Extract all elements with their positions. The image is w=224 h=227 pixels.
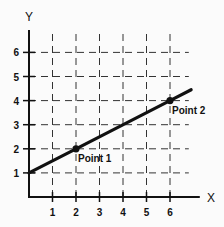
grid [29,33,189,197]
point-label-1: Point 1 [78,153,112,164]
y-axis-title: Y [25,10,33,24]
x-tick-label: 5 [144,207,150,218]
y-tick-label: 5 [13,72,19,83]
x-tick-label: 3 [97,207,103,218]
x-tick-label: 1 [50,207,56,218]
y-tick-label: 1 [13,168,19,179]
y-tick-label: 6 [13,47,19,58]
y-tick-label: 2 [13,144,19,155]
ticks [23,52,170,202]
line-chart: 123456123456 Point 1Point 2 X Y [0,0,224,227]
tick-labels: 123456123456 [13,47,173,218]
x-axis-title: X [207,191,215,205]
y-tick-label: 4 [13,96,19,107]
y-tick-label: 3 [13,120,19,131]
point-marker-1 [72,145,79,152]
x-tick-label: 2 [73,207,79,218]
x-tick-label: 6 [167,207,173,218]
point-marker-2 [166,97,173,104]
point-label-2: Point 2 [172,105,206,116]
data-points: Point 1Point 2 [72,97,205,164]
x-tick-label: 4 [120,207,126,218]
